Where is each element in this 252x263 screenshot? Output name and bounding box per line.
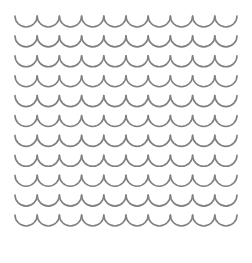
scallop-arc (170, 195, 192, 206)
scallop-arc (37, 175, 59, 186)
scallop-arc (82, 56, 104, 67)
scallop-row (15, 16, 237, 27)
scallop-arc (126, 215, 148, 226)
scallop-arc (59, 195, 81, 206)
scallop-arc (170, 116, 192, 127)
scallop-arc (82, 195, 104, 206)
scallop-arc (126, 96, 148, 107)
scallop-arc (215, 96, 237, 107)
scallop-arc (37, 155, 59, 166)
scallop-arc (15, 36, 37, 47)
scallop-arc (193, 195, 215, 206)
scallop-arc (59, 175, 81, 186)
scallop-arc (37, 96, 59, 107)
scallop-arc (148, 155, 170, 166)
scallop-arc (37, 56, 59, 67)
scallop-arc (15, 155, 37, 166)
scallop-arc (15, 215, 37, 226)
scallop-arc (148, 16, 170, 27)
scallop-arc (126, 195, 148, 206)
scallop-arc (82, 16, 104, 27)
scallop-arc (15, 96, 37, 107)
scallop-arc (104, 155, 126, 166)
scallop-arc (37, 116, 59, 127)
scallop-arc (59, 215, 81, 226)
scallop-arc (104, 116, 126, 127)
scallop-arc (104, 36, 126, 47)
scallop-arc (215, 76, 237, 87)
scallop-arc (193, 175, 215, 186)
scallop-row (15, 135, 237, 146)
scallop-arc (59, 96, 81, 107)
scallop-arc (170, 36, 192, 47)
scallop-row (15, 195, 237, 206)
scallop-arc (215, 36, 237, 47)
scallop-arc (215, 215, 237, 226)
scallop-arc (104, 96, 126, 107)
scallop-arc (82, 175, 104, 186)
scallop-arc (148, 135, 170, 146)
scallop-arc (148, 96, 170, 107)
scallop-row (15, 56, 237, 67)
scallop-arc (126, 36, 148, 47)
scallop-arc (148, 36, 170, 47)
scallop-arc (148, 195, 170, 206)
scallop-arc (215, 195, 237, 206)
scallop-row (15, 36, 237, 47)
scallop-arc (37, 135, 59, 146)
scallop-arc (193, 16, 215, 27)
scallop-arc (15, 195, 37, 206)
scallop-arc (15, 116, 37, 127)
scallop-arc (215, 155, 237, 166)
scallop-arc (104, 215, 126, 226)
scallop-arc (170, 175, 192, 186)
scallop-arc (148, 215, 170, 226)
scallop-arc (126, 175, 148, 186)
scallop-arc (15, 175, 37, 186)
scallop-arc (126, 116, 148, 127)
scallop-arc (82, 36, 104, 47)
scallop-arc (193, 135, 215, 146)
scallop-arc (215, 135, 237, 146)
scallop-arc (193, 76, 215, 87)
scallop-arc (59, 36, 81, 47)
scallop-arc (59, 76, 81, 87)
scallop-arc (170, 215, 192, 226)
scallop-row (15, 116, 237, 127)
scallop-arc (59, 16, 81, 27)
scallop-arc (104, 16, 126, 27)
scallop-arc (15, 56, 37, 67)
scallop-row (15, 215, 237, 226)
scallop-arc (148, 56, 170, 67)
scallop-arc (59, 116, 81, 127)
scallop-arc (37, 76, 59, 87)
scallop-arc (215, 56, 237, 67)
scallop-row (15, 175, 237, 186)
scallop-arc (37, 195, 59, 206)
scallop-arc (37, 36, 59, 47)
scallop-arc (59, 135, 81, 146)
scallop-arc (104, 76, 126, 87)
scallop-arc (104, 195, 126, 206)
scallop-arc (126, 56, 148, 67)
scallop-arc (170, 96, 192, 107)
scallop-arc (104, 56, 126, 67)
scallop-arc (82, 135, 104, 146)
scallop-arc (104, 175, 126, 186)
scallop-arc (148, 175, 170, 186)
scallop-arc (82, 155, 104, 166)
scallop-arc (126, 76, 148, 87)
scallop-arc (215, 116, 237, 127)
scallop-arc (37, 16, 59, 27)
scallop-arc (82, 76, 104, 87)
scallop-arc (193, 96, 215, 107)
scallop-arc (193, 155, 215, 166)
scallop-arc (193, 116, 215, 127)
scallop-arc (82, 116, 104, 127)
scallop-arc (170, 135, 192, 146)
scallop-arc (215, 16, 237, 27)
scallop-arc (193, 215, 215, 226)
scallop-row (15, 76, 237, 87)
scallop-arc (59, 56, 81, 67)
scallop-arc (15, 135, 37, 146)
